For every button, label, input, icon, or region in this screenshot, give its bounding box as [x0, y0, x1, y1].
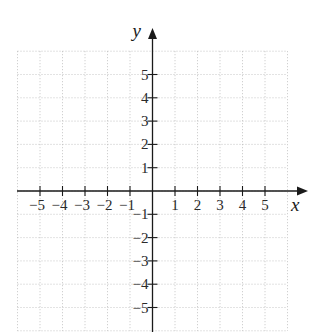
axes — [17, 28, 308, 332]
y-axis-label: y — [131, 20, 142, 41]
y-tick-label: 2 — [141, 136, 149, 152]
x-tick-label: 5 — [261, 197, 269, 213]
x-tick-label: −4 — [52, 197, 68, 213]
x-axis-label: x — [290, 194, 300, 215]
y-tick-label: −2 — [133, 230, 149, 246]
y-tick-label: 1 — [141, 160, 149, 176]
x-tick-label: 4 — [239, 197, 247, 213]
x-tick-label: 1 — [171, 197, 179, 213]
y-tick-label: 4 — [141, 90, 149, 106]
x-tick-label: 2 — [194, 197, 202, 213]
x-ticks: −5−4−3−2−112345 — [29, 186, 269, 213]
y-tick-label: −1 — [133, 206, 149, 222]
y-tick-label: −3 — [133, 253, 149, 269]
y-tick-label: 5 — [141, 67, 149, 83]
y-tick-label: −4 — [133, 276, 149, 292]
x-tick-label: −5 — [29, 197, 45, 213]
y-tick-label: 3 — [141, 113, 149, 129]
y-axis-arrow-icon — [148, 28, 157, 39]
x-tick-label: 3 — [216, 197, 224, 213]
coordinate-plane: −5−4−3−2−112345 54321−1−2−3−4−5 x y — [0, 0, 311, 334]
y-tick-label: −5 — [133, 300, 149, 316]
x-tick-label: −3 — [74, 197, 90, 213]
x-tick-label: −2 — [97, 197, 113, 213]
